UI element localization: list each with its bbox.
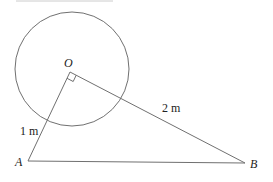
label-OA-length: 1 m [20,124,39,138]
label-B: B [250,157,258,171]
label-O: O [64,56,73,70]
segment-OB [70,72,245,163]
segment-AB [28,161,245,163]
label-A: A [14,155,23,169]
segment-OA [28,72,70,161]
label-OB-length: 2 m [162,101,181,115]
geometry-diagram: O A B 1 m 2 m [0,0,273,182]
